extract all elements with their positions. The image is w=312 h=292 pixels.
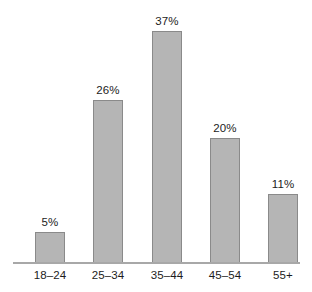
x-axis-tick-label: 45–54 — [196, 266, 254, 284]
x-axis-tick-label: 35–44 — [138, 266, 196, 284]
bar-value-label: 26% — [79, 84, 137, 97]
plot-area: 5% 26% 37% 20% 11% — [0, 0, 312, 263]
bar[interactable] — [35, 232, 65, 263]
x-axis-line — [13, 262, 300, 264]
bar-value-label: 11% — [254, 178, 312, 191]
x-axis-tick-label: 25–34 — [79, 266, 137, 284]
bar[interactable] — [152, 31, 182, 263]
x-axis-labels: 18–24 25–34 35–44 45–54 55+ — [0, 266, 312, 288]
bar[interactable] — [93, 100, 123, 263]
bar-chart: 5% 26% 37% 20% 11% 18–24 25–34 35–44 45–… — [0, 0, 312, 292]
bar[interactable] — [210, 138, 240, 263]
bar-value-label: 20% — [196, 122, 254, 135]
bar-value-label: 37% — [138, 15, 196, 28]
bar[interactable] — [268, 194, 298, 263]
x-axis-tick-label: 55+ — [254, 266, 312, 284]
bar-value-label: 5% — [21, 216, 79, 229]
x-axis-tick-label: 18–24 — [21, 266, 79, 284]
